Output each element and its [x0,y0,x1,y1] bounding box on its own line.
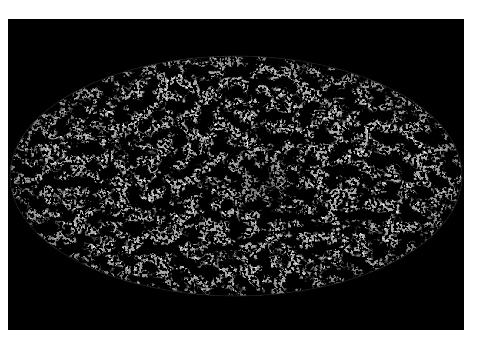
sky-map [0,0,486,339]
sky-map-texture [8,50,468,300]
